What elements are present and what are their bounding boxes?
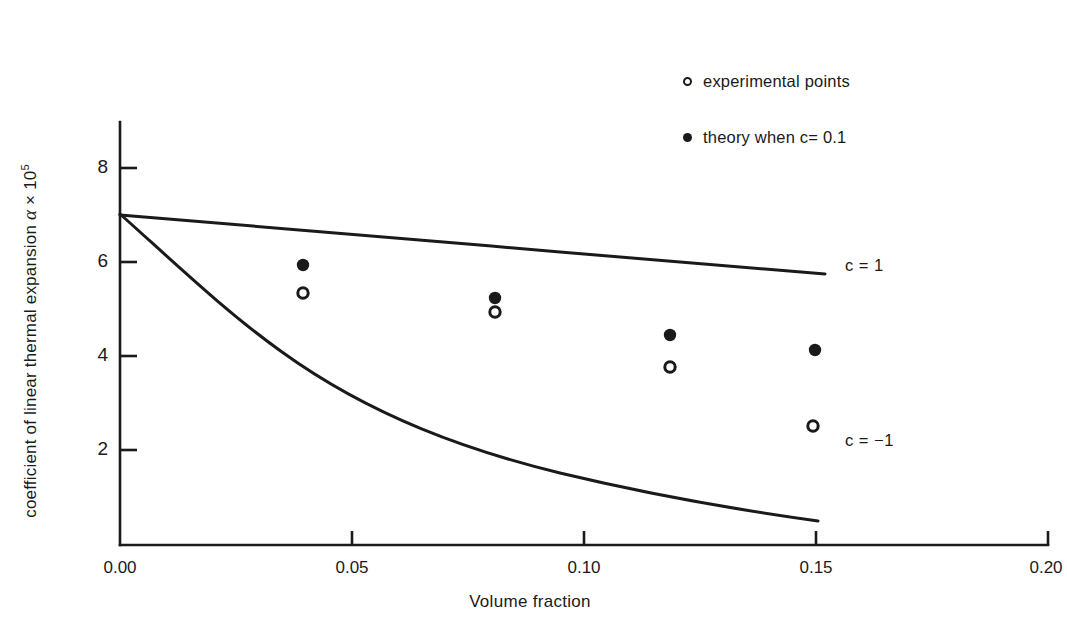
x-tick-label-0.15: 0.15	[776, 558, 856, 578]
data-point-theory-1	[297, 259, 309, 271]
legend-label-theory: theory when c= 0.1	[698, 128, 846, 147]
data-point-experimental-2	[490, 307, 500, 317]
y-axis-label: coefficient of linear thermal expansion …	[19, 106, 41, 576]
x-tick-label-0.10: 0.10	[544, 558, 624, 578]
data-point-experimental-4	[808, 421, 818, 431]
legend-item-theory: theory when c= 0.1	[676, 120, 850, 154]
x-tick-label-0.20: 0.20	[1006, 558, 1067, 578]
x-axis-ticks	[352, 531, 1048, 545]
curve-label-c-equals-minus-1: c = −1	[845, 431, 894, 450]
y-tick-label-2: 2	[76, 438, 108, 460]
y-axis-label-exponent: 5	[19, 164, 31, 170]
y-axis-label-symbol: α	[19, 210, 40, 220]
legend: experimental points theory when c= 0.1	[676, 64, 850, 154]
series-theory-markers	[297, 259, 821, 356]
y-tick-label-6: 6	[76, 250, 108, 272]
y-axis-label-prefix: coefficient of linear thermal expansion	[21, 220, 40, 518]
data-point-theory-3	[664, 329, 676, 341]
curve-c-equals-minus-1	[120, 214, 818, 521]
y-axis-label-times: × 10	[21, 171, 40, 210]
data-point-theory-4	[809, 344, 821, 356]
curve-label-c-equals-1: c = 1	[845, 256, 884, 275]
legend-label-experimental: experimental points	[698, 72, 850, 91]
x-tick-label-0.05: 0.05	[312, 558, 392, 578]
y-axis-ticks	[120, 168, 137, 450]
legend-item-experimental: experimental points	[676, 64, 850, 98]
x-tick-label-0.00: 0.00	[80, 558, 160, 578]
data-point-experimental-1	[298, 288, 308, 298]
x-axis-label: Volume fraction	[0, 592, 1060, 612]
y-tick-label-4: 4	[76, 344, 108, 366]
data-point-theory-2	[489, 292, 501, 304]
y-tick-label-8: 8	[76, 156, 108, 178]
filled-circle-icon	[676, 133, 698, 142]
data-point-experimental-3	[665, 362, 675, 372]
curve-c-equals-1	[120, 215, 825, 274]
open-circle-icon	[676, 77, 698, 86]
